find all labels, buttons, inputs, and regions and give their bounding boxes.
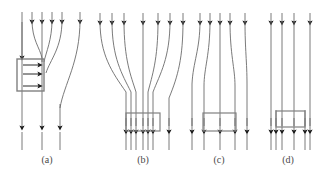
panel-a-line-6 <box>60 12 80 150</box>
panel-b-line-1 <box>100 13 126 150</box>
caption-a: (a) <box>41 154 52 165</box>
caption-d: (d) <box>282 154 294 165</box>
panel-a-line-2 <box>32 12 42 62</box>
caption-c: (c) <box>213 154 224 165</box>
diagram-canvas <box>0 0 326 179</box>
panel-c-group <box>192 13 247 150</box>
panel-d-group <box>271 13 310 150</box>
panel-c-box <box>203 113 236 131</box>
panel-c-line-1 <box>192 13 200 150</box>
caption-b: (b) <box>137 154 149 165</box>
panel-a-line-4 <box>44 12 52 62</box>
panel-b-line-7 <box>169 13 183 150</box>
panel-c-line-4 <box>230 13 235 150</box>
panel-b-line-6 <box>153 13 170 150</box>
caption-row: (a) (b) (c) (d) <box>0 154 326 174</box>
panel-d-box <box>276 111 305 127</box>
panel-a-group <box>17 12 80 150</box>
panel-b-line-2 <box>112 13 131 150</box>
panel-a-internal-arrows <box>23 65 40 86</box>
panel-a-line-5 <box>46 12 62 73</box>
figure-container: (a) (b) (c) (d) <box>0 0 326 179</box>
panel-c-line-5 <box>245 13 247 150</box>
panel-c-line-2 <box>204 13 210 150</box>
panel-b-group <box>100 13 183 150</box>
